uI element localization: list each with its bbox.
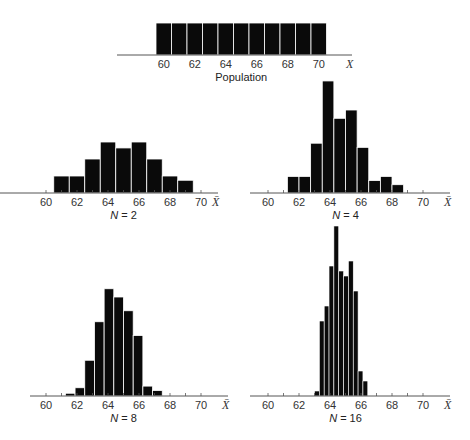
x-tick-label: 68 (386, 399, 398, 411)
histogram-bar (380, 176, 392, 193)
x-tick-label: 62 (189, 58, 201, 70)
histogram-bar (133, 336, 143, 397)
histogram-bar (353, 291, 358, 396)
histogram-bar (329, 266, 334, 396)
histogram-bar (85, 360, 95, 396)
histogram-bar (203, 23, 219, 55)
histogram-bar (287, 176, 299, 193)
histogram-n8: 606264666870X̄N = 8 (30, 289, 230, 424)
x-tick-label: 70 (417, 196, 429, 208)
x-tick-label: 70 (195, 399, 207, 411)
histogram-bar (100, 142, 116, 193)
x-tick-label: 70 (195, 196, 207, 208)
histogram-bar (357, 147, 369, 193)
histogram-bar (339, 271, 344, 396)
histogram-bar (143, 386, 153, 396)
histogram-bar (265, 23, 281, 55)
sampling-distribution-figure: 606264666870XPopulation606264666870X̄N =… (0, 0, 470, 440)
histogram-bar (249, 23, 265, 55)
histogram-bar (311, 143, 323, 193)
histogram-bar (116, 148, 132, 193)
x-tick-label: 68 (282, 58, 294, 70)
histogram-bar (147, 159, 163, 193)
chart-caption: N = 16 (329, 412, 362, 424)
x-tick-label: 64 (102, 399, 114, 411)
x-tick-label: 70 (313, 58, 325, 70)
histogram-bar (334, 226, 339, 396)
x-tick-label: 60 (40, 399, 52, 411)
histogram-bar (358, 371, 363, 396)
histogram-bar (124, 311, 134, 396)
chart-caption: N = 8 (110, 412, 137, 424)
x-tick-label: 68 (164, 196, 176, 208)
histogram-bar (104, 289, 114, 396)
histogram-bar (94, 322, 104, 396)
x-tick-label: 64 (102, 196, 114, 208)
histogram-bar (85, 159, 101, 193)
x-tick-label: 62 (71, 196, 83, 208)
histogram-population: 606264666870XPopulation (117, 23, 354, 83)
histogram-bar (187, 23, 203, 55)
x-tick-label: 62 (71, 399, 83, 411)
x-tick-label: 60 (262, 399, 274, 411)
x-tick-label: 68 (386, 196, 398, 208)
chart-caption: Population (215, 71, 267, 83)
histogram-bar (218, 23, 234, 55)
histogram-bar (153, 391, 163, 397)
x-tick-label: 70 (417, 399, 429, 411)
chart-caption: N = 4 (332, 209, 359, 221)
histogram-bar (348, 261, 353, 396)
histogram-bar (296, 23, 312, 55)
histogram-bar (114, 297, 124, 396)
histogram-bar (156, 23, 172, 55)
x-axis-variable-label: X̄ (443, 195, 452, 209)
histogram-bar (392, 185, 404, 193)
histogram-bar (369, 181, 381, 193)
x-tick-label: 68 (164, 399, 176, 411)
histogram-bar (319, 321, 324, 396)
histogram-bar (363, 381, 368, 396)
x-axis-variable-label: X̄ (443, 398, 452, 412)
histogram-n2: 606264666870X̄N = 2 (0, 142, 220, 221)
x-axis-variable-label: X (345, 57, 354, 71)
x-tick-label: 66 (355, 196, 367, 208)
histogram-bar (324, 306, 329, 396)
x-tick-label: 60 (40, 196, 52, 208)
x-tick-label: 64 (324, 399, 336, 411)
histogram-bar (299, 176, 311, 193)
histogram-bar (311, 23, 327, 55)
x-tick-label: 64 (220, 58, 232, 70)
histogram-bar (334, 118, 346, 193)
x-tick-label: 64 (324, 196, 336, 208)
histogram-bar (346, 110, 358, 193)
x-tick-label: 66 (251, 58, 263, 70)
histogram-n4: 606264666870X̄N = 4 (250, 81, 452, 221)
x-tick-label: 62 (293, 196, 305, 208)
x-tick-label: 60 (158, 58, 170, 70)
histogram-bar (280, 23, 296, 55)
x-axis-variable-label: X̄ (221, 398, 230, 412)
chart-caption: N = 2 (110, 209, 137, 221)
x-tick-label: 66 (133, 399, 145, 411)
x-axis-variable-label: X̄ (211, 195, 220, 209)
x-tick-label: 66 (133, 196, 145, 208)
histogram-bar (75, 388, 85, 396)
histogram-bar (315, 391, 320, 396)
histogram-bar (322, 81, 334, 193)
histogram-bar (234, 23, 250, 55)
histogram-n16: 606264666870X̄N = 16 (250, 226, 452, 424)
histogram-bar (344, 276, 349, 396)
histogram-bar (172, 23, 188, 55)
x-tick-label: 60 (262, 196, 274, 208)
histogram-bar (131, 142, 147, 193)
x-tick-label: 62 (293, 399, 305, 411)
x-tick-label: 66 (355, 399, 367, 411)
